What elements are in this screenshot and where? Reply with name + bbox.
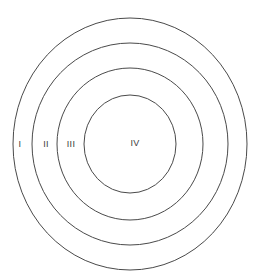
concentric-circles-diagram: I II III IV	[0, 0, 261, 276]
region-label-ii: II	[43, 139, 49, 149]
diagram-canvas: I II III IV	[0, 0, 261, 276]
region-label-iii: III	[67, 139, 75, 149]
region-label-i: I	[19, 139, 22, 149]
region-label-iv: IV	[130, 138, 139, 148]
